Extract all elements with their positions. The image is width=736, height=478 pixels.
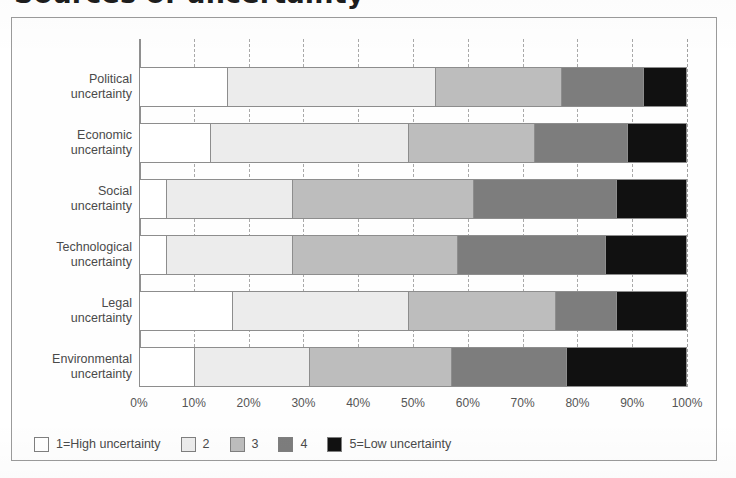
- bar-segment: [408, 291, 556, 331]
- bar-segment: [408, 123, 534, 163]
- bar-segment: [210, 123, 407, 163]
- bar-segment: [139, 179, 166, 219]
- x-axis-tick-labels: 0%10%20%30%40%50%60%70%80%90%100%: [139, 396, 687, 416]
- bar-segment: [643, 67, 687, 107]
- bar-segment: [139, 235, 166, 275]
- bar-segment: [232, 291, 407, 331]
- bar-row: [139, 235, 687, 275]
- category-label-line1: Technological: [20, 240, 132, 255]
- bar-segment: [627, 123, 687, 163]
- legend-label: 2: [203, 437, 210, 451]
- legend-swatch-icon: [34, 437, 49, 452]
- bar-segment: [139, 67, 227, 107]
- bar-row: [139, 67, 687, 107]
- bar-segment: [292, 179, 473, 219]
- x-tick-label: 30%: [291, 396, 315, 410]
- x-tick-label: 100%: [672, 396, 703, 410]
- bar-segment: [139, 123, 210, 163]
- category-label-6: Environmentaluncertainty: [20, 352, 132, 382]
- x-tick-label: 10%: [182, 396, 206, 410]
- category-label-1: Politicaluncertainty: [20, 72, 132, 102]
- x-tick-label: 70%: [511, 396, 535, 410]
- category-label-2: Economicuncertainty: [20, 128, 132, 158]
- figure-frame: PoliticaluncertaintyEconomicuncertaintyS…: [11, 17, 717, 461]
- plot-area: [139, 45, 687, 387]
- x-tick-label: 20%: [237, 396, 261, 410]
- legend-swatch-icon: [181, 437, 196, 452]
- bar-row: [139, 347, 687, 387]
- bar-row: [139, 291, 687, 331]
- legend-swatch-icon: [327, 437, 342, 452]
- bar-segment: [166, 235, 292, 275]
- bar-segment: [566, 347, 687, 387]
- page-title: Sources of uncertainty: [14, 0, 365, 9]
- bar-segment: [166, 179, 292, 219]
- bar-segment: [309, 347, 451, 387]
- x-tick-label: 40%: [346, 396, 370, 410]
- legend-item-2: 2: [181, 437, 210, 452]
- bar-segment: [194, 347, 309, 387]
- bar-segment: [292, 235, 456, 275]
- x-tick-label: 0%: [130, 396, 147, 410]
- bar-segment: [555, 291, 615, 331]
- bar-segment: [616, 291, 687, 331]
- bar-row: [139, 123, 687, 163]
- x-tick-label: 60%: [456, 396, 480, 410]
- legend-item-1: 1=High uncertainty: [34, 437, 161, 452]
- category-label-line2: uncertainty: [20, 199, 132, 214]
- chart-legend: 1=High uncertainty2345=Low uncertainty: [34, 432, 471, 456]
- legend-label: 4: [300, 437, 307, 451]
- bar-segment: [473, 179, 615, 219]
- legend-label: 3: [252, 437, 259, 451]
- x-tick-label: 50%: [401, 396, 425, 410]
- bar-segment: [561, 67, 643, 107]
- bar-segment: [605, 235, 687, 275]
- category-label-line1: Environmental: [20, 352, 132, 367]
- bar-segment: [435, 67, 561, 107]
- legend-item-3: 3: [230, 437, 259, 452]
- category-label-line2: uncertainty: [20, 143, 132, 158]
- legend-swatch-icon: [278, 437, 293, 452]
- bar-segment: [616, 179, 687, 219]
- category-label-line2: uncertainty: [20, 311, 132, 326]
- category-label-line1: Social: [20, 184, 132, 199]
- gridline-100pct: [687, 39, 688, 387]
- legend-item-4: 4: [278, 437, 307, 452]
- category-label-5: Legaluncertainty: [20, 296, 132, 326]
- legend-label: 1=High uncertainty: [56, 437, 161, 451]
- category-label-line2: uncertainty: [20, 367, 132, 382]
- category-label-4: Technologicaluncertainty: [20, 240, 132, 270]
- category-label-line2: uncertainty: [20, 255, 132, 270]
- bar-segment: [534, 123, 627, 163]
- x-tick-label: 90%: [620, 396, 644, 410]
- legend-swatch-icon: [230, 437, 245, 452]
- bar-segment: [227, 67, 435, 107]
- bar-segment: [139, 347, 194, 387]
- category-label-line1: Economic: [20, 128, 132, 143]
- category-label-line1: Political: [20, 72, 132, 87]
- chart-title-strip: Sources of uncertainty: [0, 0, 736, 17]
- category-label-line1: Legal: [20, 296, 132, 311]
- bar-segment: [139, 291, 232, 331]
- category-label-3: Socialuncertainty: [20, 184, 132, 214]
- legend-item-5: 5=Low uncertainty: [327, 437, 451, 452]
- legend-label: 5=Low uncertainty: [349, 437, 451, 451]
- bar-segment: [451, 347, 566, 387]
- bar-row: [139, 179, 687, 219]
- category-label-line2: uncertainty: [20, 87, 132, 102]
- x-tick-label: 80%: [565, 396, 589, 410]
- bar-segment: [457, 235, 605, 275]
